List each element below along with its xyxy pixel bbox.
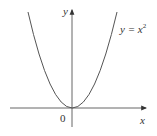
parabola-chart: y x 0 y = x2 (0, 0, 157, 136)
x-axis-label: x (139, 114, 145, 126)
y-axis-label: y (62, 5, 68, 17)
curve-label: y = x2 (119, 22, 147, 35)
origin-label: 0 (60, 112, 66, 124)
